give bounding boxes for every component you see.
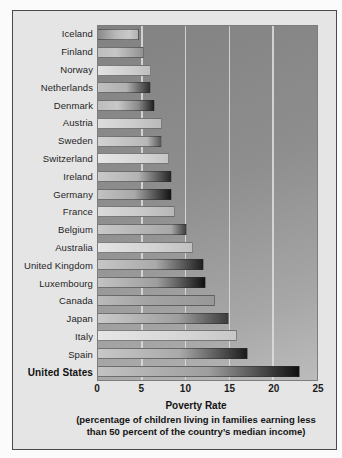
country-label: Australia [13,239,93,257]
country-label: Iceland [13,25,93,43]
country-bar [98,224,187,235]
country-label: Germany [13,185,93,203]
x-axis-tick: 15 [224,383,235,394]
country-bar [98,295,215,306]
x-axis-caption-line2: than 50 percent of the country’s median … [76,426,316,438]
figure-frame: IcelandFinlandNorwayNetherlandsDenmarkAu… [12,10,337,450]
bar-row [98,221,317,239]
country-bar [98,153,169,164]
country-label: Norway [13,61,93,79]
country-bar [98,313,229,324]
country-label: Sweden [13,132,93,150]
country-label: Ireland [13,167,93,185]
x-axis-ticks: 0510152025 [97,383,318,395]
bar-row [98,362,317,380]
x-axis-tick: 0 [94,383,100,394]
x-axis-label-block: Poverty Rate (percentage of children liv… [76,400,316,438]
country-label: Finland [13,43,93,61]
x-axis-caption-line1: (percentage of children living in famili… [76,414,316,426]
bar-row [98,274,317,292]
bar-row [98,44,317,62]
bar-row [98,203,317,221]
country-label: Switzerland [13,150,93,168]
bar-row [98,26,317,44]
country-label: United Kingdom [13,256,93,274]
country-bar [98,100,155,111]
country-label: Italy [13,328,93,346]
bar-row [98,61,317,79]
bar-row [98,97,317,115]
bar-row [98,292,317,310]
country-bar [98,47,144,58]
x-axis-tick: 5 [138,383,144,394]
bar-row [98,256,317,274]
x-axis-tick: 10 [180,383,191,394]
country-label: Japan [13,310,93,328]
x-axis-tick: 25 [312,383,323,394]
country-label: Netherlands [13,78,93,96]
country-label: Austria [13,114,93,132]
bar-row [98,238,317,256]
bar-row [98,132,317,150]
bar-row [98,79,317,97]
bar-row [98,327,317,345]
country-bar [98,277,206,288]
x-axis-title: Poverty Rate [76,400,316,411]
country-label: Canada [13,292,93,310]
bar-row [98,150,317,168]
bar-row [98,309,317,327]
country-label: United States [13,363,93,381]
bar-series [98,26,317,380]
country-bar [98,330,237,341]
country-bar [98,118,162,129]
country-bar [98,242,193,253]
country-bar [98,82,151,93]
country-label: Belgium [13,221,93,239]
country-bar [98,171,172,182]
country-bar [98,136,162,147]
country-bar [98,29,139,40]
country-label: Spain [13,345,93,363]
country-bar [98,189,172,200]
country-labels: IcelandFinlandNorwayNetherlandsDenmarkAu… [13,25,93,381]
country-bar [98,366,300,377]
country-label: Luxembourg [13,274,93,292]
plot-area [97,25,318,381]
country-label: Denmark [13,96,93,114]
country-bar [98,348,248,359]
country-label: France [13,203,93,221]
bar-row [98,185,317,203]
country-bar [98,65,151,76]
bar-row [98,345,317,363]
x-axis-tick: 20 [268,383,279,394]
bar-row [98,115,317,133]
bar-row [98,168,317,186]
country-bar [98,206,175,217]
country-bar [98,259,204,270]
